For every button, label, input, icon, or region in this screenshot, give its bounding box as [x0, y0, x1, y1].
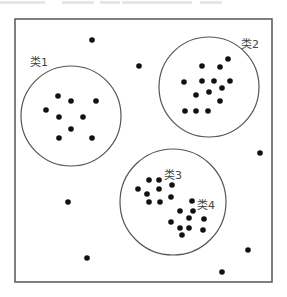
- data-point: [80, 114, 86, 120]
- outlier-point: [245, 247, 251, 253]
- data-point: [200, 227, 206, 233]
- data-point: [168, 219, 174, 225]
- data-point: [179, 232, 185, 238]
- data-point: [56, 114, 62, 120]
- cluster-label: 类4: [197, 198, 215, 212]
- data-point: [199, 63, 205, 69]
- data-point: [93, 98, 99, 104]
- frame-border: [15, 19, 272, 282]
- outlier-point: [136, 63, 142, 69]
- data-point: [168, 194, 174, 200]
- data-point: [181, 79, 187, 85]
- data-point: [56, 135, 62, 141]
- data-point: [193, 108, 199, 114]
- data-point: [217, 64, 223, 70]
- data-point: [89, 135, 95, 141]
- data-point: [68, 98, 74, 104]
- data-point: [205, 108, 211, 114]
- cluster-4: 类4: [168, 198, 215, 238]
- data-point: [219, 85, 225, 91]
- outlier-point: [84, 255, 90, 261]
- data-point: [190, 208, 196, 214]
- data-point: [177, 225, 183, 231]
- cluster-label: 类2: [241, 37, 259, 51]
- cluster-2: 类2: [159, 37, 259, 137]
- data-point: [186, 225, 192, 231]
- data-point: [225, 56, 231, 62]
- cluster-label: 类1: [30, 55, 48, 69]
- cluster-label: 类3: [164, 168, 182, 182]
- data-point: [189, 198, 195, 204]
- outlier-point: [257, 150, 263, 156]
- data-point: [217, 98, 223, 104]
- data-point: [193, 92, 199, 98]
- outlier-point: [65, 199, 71, 205]
- outliers: [65, 37, 263, 275]
- data-point: [177, 208, 183, 214]
- outlier-point: [219, 269, 225, 275]
- cluster-boundary: [159, 37, 259, 137]
- data-point: [55, 93, 61, 99]
- outlier-point: [89, 37, 95, 43]
- data-point: [157, 199, 163, 205]
- data-point: [156, 186, 162, 192]
- data-point: [144, 191, 150, 197]
- data-point: [182, 108, 188, 114]
- cluster-diagram: 类1类2类3类4: [0, 0, 287, 297]
- data-point: [206, 89, 212, 95]
- data-point: [68, 126, 74, 132]
- data-point: [169, 182, 175, 188]
- cluster-1: 类1: [21, 55, 121, 166]
- data-point: [146, 199, 152, 205]
- data-point: [135, 186, 141, 192]
- data-point: [186, 215, 192, 221]
- data-point: [199, 78, 205, 84]
- data-point: [211, 78, 217, 84]
- data-point: [156, 177, 162, 183]
- data-point: [43, 107, 49, 113]
- cluster-boundary: [21, 66, 121, 166]
- data-point: [146, 177, 152, 183]
- data-point: [201, 216, 207, 222]
- data-point: [227, 78, 233, 84]
